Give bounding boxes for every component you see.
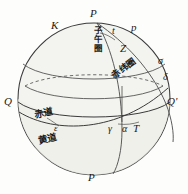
label-q-right: Q': [167, 96, 177, 107]
label-vernal-equinox: γ: [108, 124, 112, 134]
label-meridian-circle: 子午圈: [92, 26, 101, 53]
label-delta: δ: [163, 72, 168, 82]
label-ecliptic-pole: K: [51, 20, 58, 31]
celestial-sphere-figure: P P K t p Z σ δ Q Q' γ α T ε 子午圈 赤纬圈 赤道 …: [0, 0, 188, 194]
label-hour-angle-t: t: [112, 26, 115, 36]
label-point-t: T: [133, 123, 139, 134]
label-north-pole: P: [90, 8, 97, 19]
label-hour-circle-p: p: [131, 22, 137, 33]
label-star-z: Z: [120, 43, 126, 54]
label-q-left: Q: [4, 96, 12, 107]
label-sigma: σ: [158, 56, 163, 66]
label-right-ascension: α: [122, 124, 127, 134]
label-south-pole: P: [88, 172, 95, 183]
